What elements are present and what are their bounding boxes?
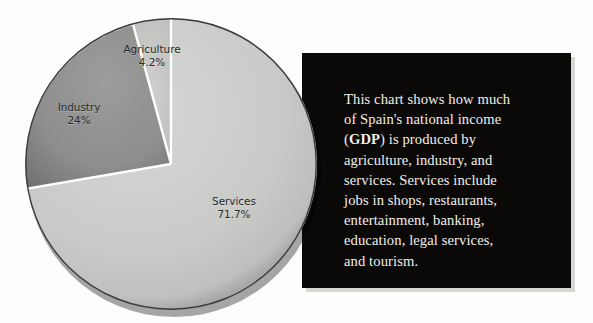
- info-caption-line: services. Services include: [344, 170, 560, 190]
- info-caption-line: This chart shows how much: [344, 89, 560, 109]
- info-caption-text: This chart shows how muchof Spain's nati…: [344, 89, 560, 271]
- info-caption-emphasis: GDP: [349, 131, 380, 147]
- info-caption-line: jobs in shops, restaurants,: [344, 190, 560, 210]
- pie-label-industry-name: Industry: [58, 101, 101, 113]
- pie-label-agriculture-value: 4.2%: [107, 56, 197, 69]
- info-caption-line: and tourism.: [344, 251, 560, 271]
- info-caption-line: education, legal services,: [344, 230, 560, 250]
- figure-canvas: Agriculture 4.2% Industry 24% Services 7…: [0, 0, 593, 323]
- pie-label-services-name: Services: [212, 195, 256, 207]
- pie-label-industry-value: 24%: [41, 114, 117, 127]
- pie-label-agriculture-name: Agriculture: [123, 43, 180, 55]
- pie-label-industry: Industry 24%: [41, 101, 117, 126]
- info-caption-panel: This chart shows how muchof Spain's nati…: [302, 53, 571, 288]
- info-caption-line: entertainment, banking,: [344, 210, 560, 230]
- info-caption-line: agriculture, industry, and: [344, 150, 560, 170]
- pie-label-services-value: 71.7%: [196, 208, 272, 221]
- info-caption-line: (GDP) is produced by: [344, 129, 560, 149]
- pie-chart: Agriculture 4.2% Industry 24% Services 7…: [0, 0, 340, 323]
- pie-label-services: Services 71.7%: [196, 195, 272, 220]
- pie-label-agriculture: Agriculture 4.2%: [107, 43, 197, 68]
- info-caption-line: of Spain's national income: [344, 109, 560, 129]
